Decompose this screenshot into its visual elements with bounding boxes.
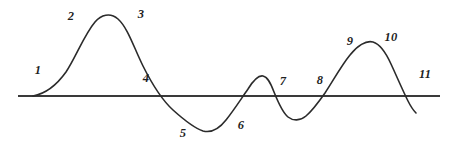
wave-curve-path [33,15,416,131]
point-label-9: 9 [347,35,353,48]
point-label-10: 10 [385,31,398,44]
point-label-3: 3 [138,8,144,21]
point-label-6: 6 [238,119,244,132]
point-label-2: 2 [68,10,74,23]
point-label-4: 4 [143,72,149,85]
point-label-5: 5 [180,127,186,140]
point-label-11: 11 [419,68,431,81]
figure-container: 1 2 3 4 5 6 7 8 9 10 11 [0,0,452,148]
point-label-1: 1 [35,64,41,77]
point-label-7: 7 [280,75,286,88]
point-label-8: 8 [317,74,323,87]
